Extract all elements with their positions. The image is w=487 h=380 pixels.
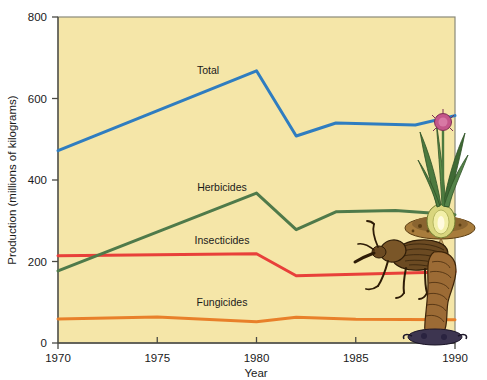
x-tick-label-1970: 1970 xyxy=(45,352,71,364)
soil-speck xyxy=(412,230,415,233)
y-tick-label-200: 200 xyxy=(28,256,47,268)
x-axis-title: Year xyxy=(244,367,267,379)
stump-root-base xyxy=(408,329,462,345)
y-tick-label-400: 400 xyxy=(28,174,47,186)
soil-speck xyxy=(418,224,422,228)
y-tick-label-800: 800 xyxy=(28,11,47,23)
flower-head-center xyxy=(439,118,448,127)
series-label-total: Total xyxy=(197,64,219,76)
x-tick-label-1985: 1985 xyxy=(343,352,369,364)
x-tick-label-1975: 1975 xyxy=(144,352,170,364)
soil-speck xyxy=(459,224,462,227)
root-nodule xyxy=(441,334,447,340)
x-tick-label-1980: 1980 xyxy=(244,352,270,364)
x-tick-label-1990: 1990 xyxy=(442,352,468,364)
root-nodule xyxy=(421,333,427,339)
series-label-insecticides: Insecticides xyxy=(195,234,250,246)
onion-bulb-core xyxy=(438,216,445,230)
y-axis-title: Production (millions of kilograms) xyxy=(6,95,18,265)
y-tick-label-0: 0 xyxy=(41,337,47,349)
series-label-fungicides: Fungicides xyxy=(197,296,248,308)
y-tick-label-600: 600 xyxy=(28,93,47,105)
series-label-herbicides: Herbicides xyxy=(197,181,247,193)
plot-area-background xyxy=(58,17,455,343)
chart-svg: 0 200 400 600 800 Production (millions o… xyxy=(0,0,487,380)
pesticide-production-line-chart: 0 200 400 600 800 Production (millions o… xyxy=(0,0,487,380)
